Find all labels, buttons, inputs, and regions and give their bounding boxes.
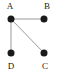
edges-group [11,19,44,53]
graph-diagram: ABCD [0,0,59,71]
graph-node-label: D [8,62,15,71]
graph-node-label: C [42,62,48,71]
graph-edge [11,19,44,53]
graph-node [8,16,15,23]
graph-node [41,50,48,57]
graph-node [41,16,48,23]
graph-node-label: A [7,2,14,11]
graph-node [8,50,15,57]
graph-node-label: B [44,2,50,11]
